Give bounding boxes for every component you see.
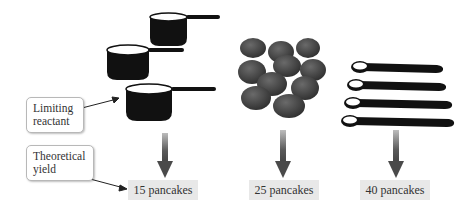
result-label-spoons: 40 pancakes [360,180,430,200]
measuring-spoon-icon [341,115,454,127]
result-label-eggs: 25 pancakes [249,180,319,200]
callout-theoretical-yield: Theoretical yield [26,145,94,181]
arrow-down-icon [157,133,173,178]
measuring-spoon-icon [344,97,452,109]
measuring-cup-icon [107,45,184,80]
measuring-spoon-icon [351,61,443,73]
callout-limiting-reactant: Limiting reactant [26,97,84,133]
arrow-down-icon [275,130,291,178]
callout-theoretical-yield-line1: Theoretical [33,150,87,163]
eggs-icon [238,38,326,118]
result-label-cups: 15 pancakes [128,180,198,200]
callout-theoretical-yield-line2: yield [33,163,87,176]
measuring-cup-icon [126,84,216,121]
callout-limiting-reactant-line2: reactant [33,115,77,128]
measuring-cup-icon [150,13,220,46]
arrow-down-icon [388,130,404,178]
measuring-spoon-icon [347,79,446,91]
callout-limiting-reactant-line1: Limiting [33,102,77,115]
